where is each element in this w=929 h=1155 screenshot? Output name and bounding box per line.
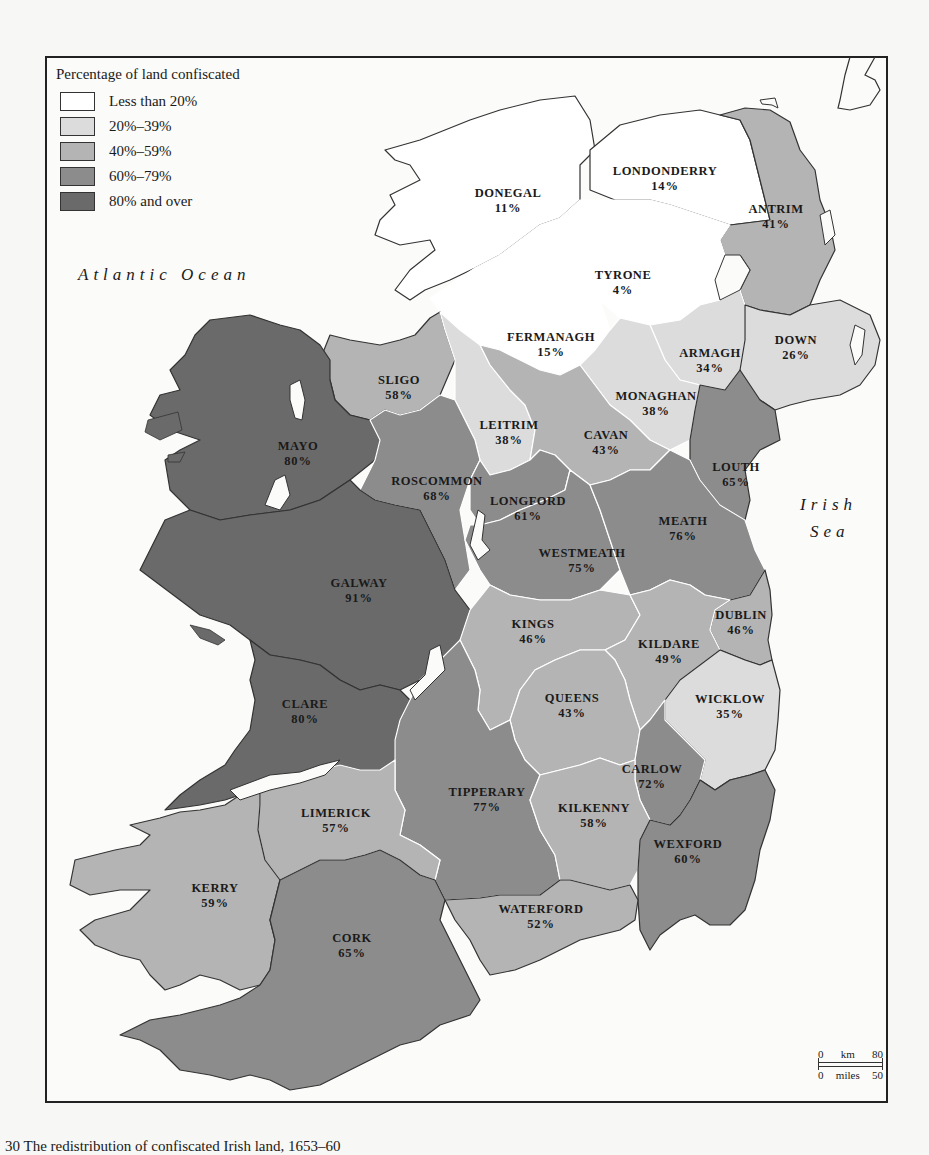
county-label-kings: KINGS46% [512,617,555,647]
county-label-sligo: SLIGO58% [378,373,420,403]
county-label-donegal: DONEGAL11% [475,186,542,216]
county-label-roscommon: ROSCOMMON68% [391,474,482,504]
county-label-westmeath: WESTMEATH75% [539,546,626,576]
legend-item: 20%–39% [56,114,240,139]
county-label-waterford: WATERFORD52% [499,902,584,932]
county-label-wicklow: WICKLOW35% [695,692,765,722]
scale-line [818,1062,883,1067]
legend-swatch [60,92,95,111]
county-galway [140,480,470,690]
county-label-wexford: WEXFORD60% [654,837,723,867]
county-label-antrim: ANTRIM41% [748,202,803,232]
legend-label: Less than 20% [109,93,197,110]
county-label-leitrim: LEITRIM38% [479,418,538,448]
county-label-down: DOWN26% [775,333,817,363]
county-label-dublin: DUBLIN46% [715,608,767,638]
irish-sea-label-1: Irish [800,495,857,515]
county-label-longford: LONGFORD61% [490,494,566,524]
irish-sea-label-2: Sea [810,522,850,542]
scale-bar: 0 km 80 0 miles 50 [818,1048,883,1081]
county-label-fermanagh: FERMANAGH15% [507,330,595,360]
atlantic-ocean-label: Atlantic Ocean [78,265,250,285]
figure-caption: 30 The redistribution of confiscated Iri… [5,1138,341,1155]
county-label-galway: GALWAY91% [331,576,388,606]
county-kerry [70,785,280,990]
county-label-kildare: KILDARE49% [638,637,700,667]
county-label-limerick: LIMERICK57% [301,806,371,836]
legend-swatch [60,167,95,186]
legend-label: 80% and over [109,193,192,210]
legend-label: 60%–79% [109,168,172,185]
county-label-louth: LOUTH65% [712,460,760,490]
legend-label: 40%–59% [109,143,172,160]
legend-swatch [60,142,95,161]
rathlin-island [760,98,778,108]
scale-mi-unit: miles [836,1069,860,1081]
scale-km-unit: km [841,1048,855,1060]
legend: Percentage of land confiscated Less than… [56,66,240,214]
legend-item: 60%–79% [56,164,240,189]
county-label-clare: CLARE80% [282,697,328,727]
legend-item: 40%–59% [56,139,240,164]
county-label-kilkenny: KILKENNY58% [558,801,630,831]
county-label-monaghan: MONAGHAN38% [615,389,696,419]
county-label-kerry: KERRY59% [191,881,238,911]
county-label-armagh: ARMAGH34% [679,346,740,376]
aran-islands [190,625,225,645]
county-label-cavan: CAVAN43% [584,428,628,458]
county-label-tyrone: TYRONE4% [595,268,651,298]
legend-item: Less than 20% [56,89,240,114]
achill-island [145,412,182,440]
legend-swatch [60,192,95,211]
county-label-meath: MEATH76% [659,514,708,544]
scale-mi-end: 50 [872,1069,883,1081]
scotland-coast [838,57,880,110]
county-label-tipperary: TIPPERARY77% [449,785,526,815]
legend-item: 80% and over [56,189,240,214]
legend-label: 20%–39% [109,118,172,135]
county-label-londonderry: LONDONDERRY14% [613,164,717,194]
scale-mi-start: 0 [818,1069,824,1081]
legend-swatch [60,117,95,136]
legend-title: Percentage of land confiscated [56,66,240,83]
county-label-cork: CORK65% [332,931,372,961]
county-label-mayo: MAYO80% [278,439,318,469]
county-label-carlow: CARLOW72% [622,762,683,792]
county-label-queens: QUEENS43% [545,691,599,721]
